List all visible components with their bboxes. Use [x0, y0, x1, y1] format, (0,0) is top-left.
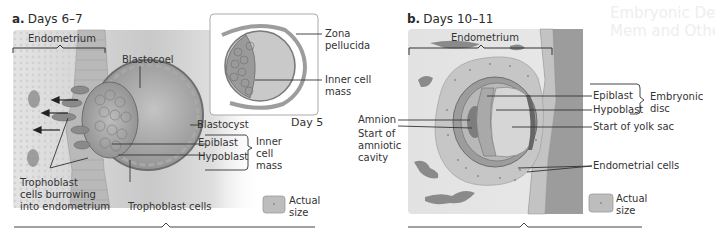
label-embryonic-disc-1: Embryonic: [650, 91, 703, 103]
label-actual-size-a-2: size: [289, 207, 308, 219]
panel-b-title: b.Days 10–11: [407, 12, 493, 26]
label-actual-size-b-2: size: [616, 205, 635, 217]
label-start-amniotic-2: amniotic: [358, 140, 401, 152]
label-epiblast-b: Epiblast: [593, 90, 633, 102]
label-blastocoel: Blastocoel: [122, 54, 174, 66]
label-inner-cell-mass-inset-1: Inner cell: [325, 74, 371, 86]
label-zona-pellucida-1: Zona: [325, 28, 350, 40]
label-embryonic-disc-2: disc: [650, 103, 670, 115]
label-hypoblast-b: Hypoblast: [593, 104, 643, 116]
label-inner-cell-mass-inset-2: mass: [325, 86, 351, 98]
panel-b-days: Days 10–11: [423, 12, 493, 26]
label-actual-size-a-1: Actual: [289, 195, 320, 207]
label-trophoblast-burrowing-1: Trophoblast: [20, 177, 78, 189]
label-endometrial-cells: Endometrial cells: [593, 160, 679, 172]
label-hypoblast-a: Hypoblast: [198, 151, 248, 163]
label-endometrium-b: Endometrium: [451, 32, 519, 44]
label-trophoblast-cells: Trophoblast cells: [128, 201, 211, 213]
label-start-amniotic-3: cavity: [358, 152, 388, 164]
label-blastocyst: Blastocyst: [197, 119, 249, 131]
label-day-5: Day 5: [291, 117, 323, 129]
label-trophoblast-burrowing-2: cells burrowing: [20, 189, 96, 201]
label-actual-size-b-1: Actual: [616, 193, 647, 205]
label-start-yolk-sac: Start of yolk sac: [593, 121, 674, 133]
label-inner-cell-mass-a-2: cell: [256, 148, 273, 160]
label-inner-cell-mass-a-3: mass: [256, 160, 282, 172]
label-trophoblast-burrowing-3: into endometrium: [20, 201, 110, 213]
label-zona-pellucida-2: pellucida: [325, 40, 370, 52]
label-inner-cell-mass-a-1: Inner: [256, 136, 282, 148]
panel-b-letter: b.: [407, 12, 420, 26]
label-amnion: Amnion: [358, 114, 396, 126]
label-start-amniotic-1: Start of: [358, 128, 395, 140]
label-endometrium-a: Endometrium: [28, 33, 96, 45]
label-epiblast-a: Epiblast: [198, 137, 238, 149]
